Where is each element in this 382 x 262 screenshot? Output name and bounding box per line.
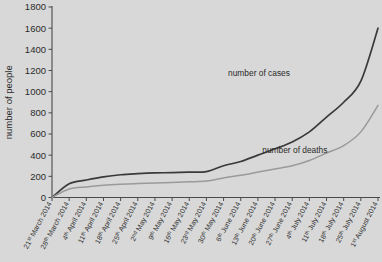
- data-series-group: [52, 28, 378, 197]
- series-line-number-of-cases: [52, 28, 378, 197]
- y-axis-tick-label: 800: [30, 107, 46, 118]
- y-axis: 020040060080010001200140016001800: [25, 1, 52, 203]
- y-axis-title-label: number of people: [3, 65, 14, 139]
- y-axis-tick-label: 600: [30, 128, 46, 139]
- y-axis-tick-label: 200: [30, 171, 46, 182]
- annotation-label: number of deaths: [262, 145, 327, 155]
- series-annotations: number of casesnumber of deaths: [228, 68, 327, 155]
- y-axis-tick-label: 400: [30, 150, 46, 161]
- series-line-number-of-deaths: [52, 105, 378, 197]
- y-axis-tick-label: 1800: [25, 1, 46, 12]
- y-axis-tick-label: 1600: [25, 23, 46, 34]
- y-axis-tick-label: 1400: [25, 44, 46, 55]
- x-axis: 21st March 201428th March 20144th April …: [21, 198, 380, 251]
- y-axis-title: number of people: [3, 65, 14, 139]
- y-axis-tick-label: 1200: [25, 65, 46, 76]
- chart-canvas: 020040060080010001200140016001800 21st M…: [0, 0, 382, 262]
- ebola-outbreak-line-chart: 020040060080010001200140016001800 21st M…: [0, 0, 382, 262]
- y-axis-tick-label: 1000: [25, 86, 46, 97]
- annotation-label: number of cases: [228, 68, 290, 78]
